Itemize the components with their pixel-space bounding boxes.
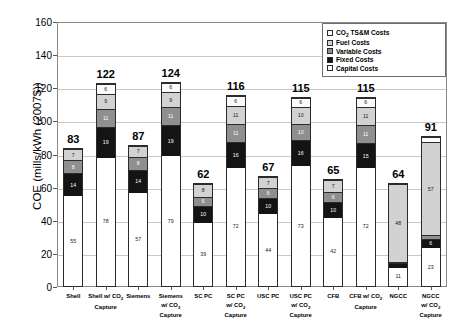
bar-segment-value: 19 <box>103 140 109 145</box>
bar-segment[interactable]: 10 <box>324 202 342 218</box>
bar-segment-value: 6 <box>299 100 302 105</box>
bar-segment[interactable]: 11 <box>162 107 180 125</box>
bar-segment[interactable]: 10 <box>292 124 310 140</box>
stacked-bar[interactable]: 113148 <box>388 183 408 287</box>
bar-segment[interactable]: 57 <box>129 193 147 286</box>
bar-segment[interactable]: 11 <box>357 125 375 143</box>
x-axis-labels: ShellShell w/ CO2CaptureSiemensSiemensw/… <box>57 289 447 336</box>
stacked-bar[interactable]: 551487 <box>63 148 83 287</box>
bar-segment-value: 16 <box>233 153 239 158</box>
bar-segment[interactable]: 19 <box>162 125 180 156</box>
bar-segment[interactable]: 10 <box>259 198 277 214</box>
legend-item[interactable]: Capital Costs <box>327 65 441 72</box>
bar-segment[interactable]: 8 <box>64 160 82 173</box>
stacked-bar[interactable]: 421067 <box>323 179 343 287</box>
bar-segment-value: 48 <box>395 221 401 226</box>
bar-segment[interactable]: 42 <box>324 218 342 286</box>
stacked-bar[interactable]: 2362573 <box>421 136 441 287</box>
bar-segment[interactable]: 3 <box>422 137 440 142</box>
bar-segment-value: 10 <box>265 204 271 209</box>
bar-segment[interactable]: 48 <box>389 184 407 262</box>
bar-segment[interactable]: 14 <box>64 173 82 196</box>
bar-segment[interactable]: 11 <box>227 124 245 142</box>
bar-segment[interactable]: 11 <box>97 109 115 127</box>
stacked-bar[interactable]: 721511116 <box>356 97 376 287</box>
legend-item[interactable]: Variable Costs <box>327 48 441 55</box>
bar-segment[interactable]: 8 <box>194 184 212 197</box>
bar-segment[interactable]: 15 <box>357 143 375 168</box>
bar-segment[interactable]: 7 <box>129 146 147 157</box>
bar-segment-value: 14 <box>135 179 141 184</box>
legend-item[interactable]: Fixed Costs <box>327 56 441 63</box>
bar-segment[interactable]: 10 <box>194 206 212 222</box>
bar-segment-value: 6 <box>104 87 107 92</box>
x-axis-tick-mark <box>366 286 367 290</box>
bar-segment[interactable]: 6 <box>227 96 245 106</box>
bar-segment[interactable]: 14 <box>129 170 147 193</box>
bar-segment[interactable]: 6 <box>162 83 180 93</box>
bar-segment[interactable]: 7 <box>259 177 277 188</box>
bar-total-label: 65 <box>327 164 339 176</box>
bar-segment[interactable]: 6 <box>259 188 277 198</box>
legend-label: Capital Costs <box>336 65 378 72</box>
stacked-bar[interactable]: 79191196 <box>161 82 181 287</box>
bar-segment[interactable]: 10 <box>292 107 310 123</box>
bar-segment-value: 39 <box>200 252 206 257</box>
bar-segment-value: 11 <box>396 274 401 279</box>
stacked-bar[interactable]: 78191196 <box>96 83 116 287</box>
bar-segment[interactable]: 6 <box>97 84 115 94</box>
bar-segment[interactable]: 23 <box>422 248 440 286</box>
bar-segment[interactable]: 19 <box>97 127 115 158</box>
bar-segment[interactable]: 3 <box>389 263 407 268</box>
bar-segment[interactable]: 16 <box>292 140 310 166</box>
bar-segment-value: 7 <box>267 181 270 186</box>
bar-segment[interactable]: 78 <box>97 158 115 286</box>
bar-segment-value: 44 <box>265 248 271 253</box>
bar-segment[interactable]: 7 <box>64 149 82 160</box>
bar-segment-value: 10 <box>330 208 336 213</box>
bar-segment[interactable]: 6 <box>357 98 375 108</box>
bar-segment[interactable]: 2 <box>422 235 440 238</box>
bar-segment[interactable]: 11 <box>357 107 375 125</box>
bar-segment[interactable]: 1 <box>389 262 407 264</box>
y-axis-tick-label: 100 <box>12 116 52 127</box>
bar-segment[interactable]: 79 <box>162 156 180 286</box>
bar-segment-value: 11 <box>168 114 173 119</box>
bar-segment[interactable]: 72 <box>227 168 245 286</box>
legend-item[interactable]: Fuel Costs <box>327 39 441 46</box>
bar-segment[interactable]: 55 <box>64 196 82 286</box>
bar-segment[interactable]: 8 <box>129 157 147 170</box>
stacked-bar[interactable]: 721611116 <box>226 95 246 287</box>
bar-segment-value: 10 <box>200 212 206 217</box>
bar-segment[interactable]: 7 <box>324 180 342 191</box>
bar-segment[interactable]: 9 <box>97 94 115 109</box>
bar-segment[interactable]: 72 <box>357 168 375 286</box>
bar-segment[interactable]: 11 <box>389 268 407 286</box>
bar-segment[interactable]: 16 <box>227 142 245 168</box>
bar-total-label: 91 <box>425 121 437 133</box>
bar-total-label: 83 <box>67 133 79 145</box>
bar-segment[interactable]: 44 <box>259 214 277 286</box>
bar-segment[interactable]: 11 <box>227 106 245 124</box>
bar-segment[interactable]: 73 <box>292 166 310 286</box>
stacked-bar[interactable]: 441067 <box>258 176 278 287</box>
bar-segment[interactable]: 6 <box>292 98 310 108</box>
bar-total-label: 115 <box>292 82 310 94</box>
stacked-bar[interactable]: 391068 <box>193 183 213 287</box>
chart-root: COE (mills/kWh (2007$)) 0204060801001201… <box>0 0 453 336</box>
bar-segment[interactable]: 6 <box>324 192 342 202</box>
bar-segment[interactable]: 9 <box>162 92 180 107</box>
stacked-bar[interactable]: 731610106 <box>291 97 311 287</box>
x-axis-tick-mark <box>268 286 269 290</box>
y-axis-tick-label: 80 <box>12 149 52 160</box>
bar-segment-value: 11 <box>233 131 238 136</box>
bar-segment-value: 6 <box>429 241 432 246</box>
bar-segment[interactable]: 6 <box>194 197 212 207</box>
bar-segment-value: 10 <box>298 113 304 118</box>
stacked-bar[interactable]: 571487 <box>128 145 148 287</box>
bar-segment[interactable]: 57 <box>422 142 440 235</box>
bar-segment[interactable]: 6 <box>422 239 440 249</box>
legend-item[interactable]: CO2 TS&M Costs <box>327 29 441 38</box>
bar-segment[interactable]: 39 <box>194 223 212 286</box>
y-axis-tick-label: 0 <box>12 282 52 293</box>
